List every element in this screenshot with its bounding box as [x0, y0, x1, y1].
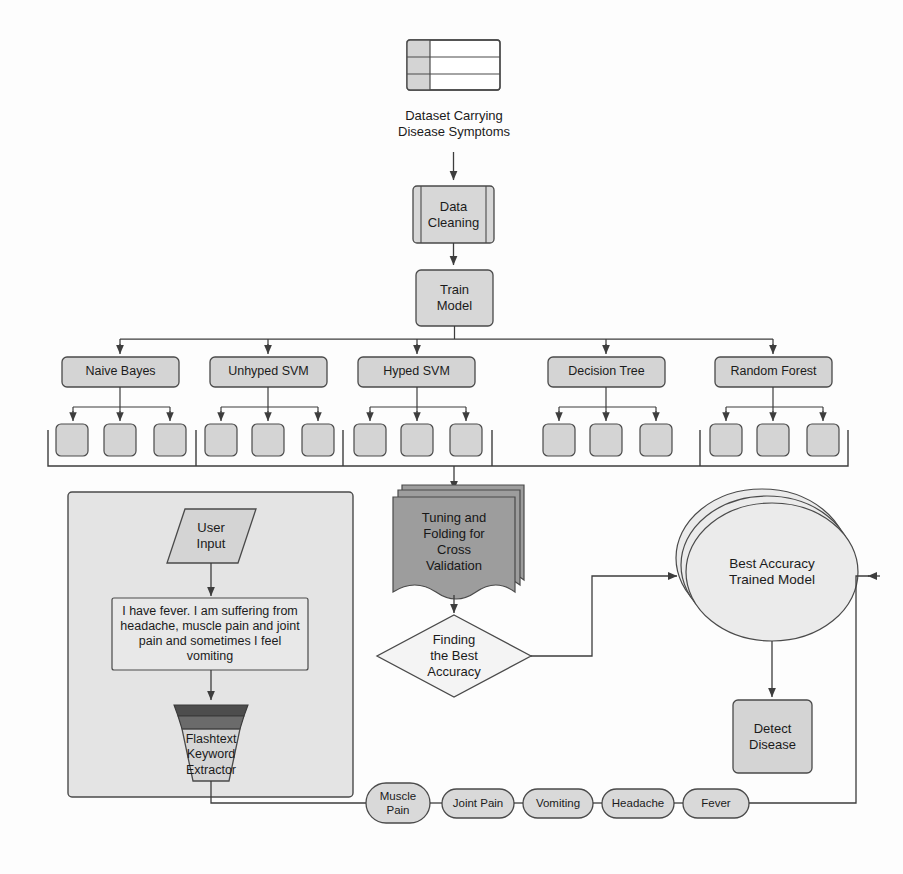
classifier-box-decision-tree: [548, 357, 665, 387]
edge-leaf-arrows: [73, 411, 823, 421]
symptom-pill-muscle-pain: [366, 783, 430, 823]
classifier-box-naive-bayes: [62, 357, 179, 387]
tuning-folding-stack: [393, 485, 524, 599]
detect-disease-node: [733, 700, 812, 773]
train-model-node: [416, 270, 493, 326]
classifier-box-random-forest: [715, 357, 832, 387]
symptom-pill-joint-pain: [442, 789, 514, 818]
symptom-statement-box: [112, 598, 308, 670]
classifier-box-unhyped-svm: [210, 357, 327, 387]
edge-train-to-classifiers: [120, 326, 773, 345]
classifier-boxes: [62, 357, 832, 387]
edge-finding-to-best-model: [531, 576, 677, 656]
symptom-pill-fever: [683, 789, 749, 818]
flowchart-vector-layer: [0, 0, 903, 874]
classifier-box-hyped-svm: [358, 357, 475, 387]
dataset-table-icon: [407, 40, 500, 90]
symptom-pill-headache: [602, 789, 674, 818]
flowchart-canvas: Dataset Carrying Disease Symptoms Data C…: [0, 0, 903, 874]
leaf-boxes: [56, 424, 839, 456]
symptom-pill-vomiting: [523, 789, 593, 818]
edge-train-arrows: [120, 344, 773, 354]
symptom-pills: [366, 783, 749, 823]
edge-classifiers-to-leaves: [73, 387, 823, 412]
data-cleaning-node: [413, 186, 494, 243]
best-accuracy-model-stack: [676, 489, 858, 641]
finding-best-accuracy-diamond: [377, 615, 531, 697]
